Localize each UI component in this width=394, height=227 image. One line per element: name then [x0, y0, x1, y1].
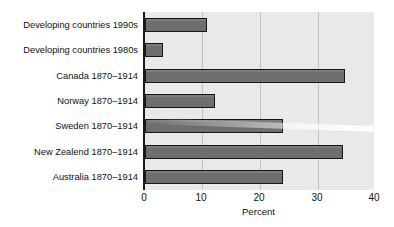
xtick-label: 20 [253, 192, 264, 203]
bar-row [145, 37, 374, 62]
xtick-label: 40 [368, 192, 379, 203]
category-label: Norway 1870–1914 [57, 96, 138, 106]
plot-area [143, 12, 374, 190]
category-label-row: Canada 1870–1914 [0, 63, 138, 88]
category-label: New Zealend 1870–1914 [34, 147, 138, 157]
x-axis-title: Percent [143, 206, 374, 217]
category-label-row: Sweden 1870–1914 [0, 114, 138, 139]
category-label-row: Developing countries 1980s [0, 37, 138, 62]
category-label: Canada 1870–1914 [56, 71, 138, 81]
category-label: Developing countries 1980s [23, 45, 138, 55]
bar-australia [145, 170, 283, 184]
category-label-row: Australia 1870–1914 [0, 165, 138, 190]
xtick-label: 0 [141, 192, 147, 203]
category-label-row: Developing countries 1990s [0, 12, 138, 37]
bar-chart-figure: Developing countries 1990s Developing co… [0, 0, 394, 227]
bar-norway [145, 94, 215, 108]
xtick-label: 10 [195, 192, 206, 203]
bar-developing-1990s [145, 18, 207, 32]
bar-row [145, 114, 374, 139]
bar-sweden [145, 119, 283, 133]
category-axis-labels: Developing countries 1990s Developing co… [0, 12, 140, 190]
category-label: Australia 1870–1914 [53, 172, 138, 182]
bar-row [145, 12, 374, 37]
category-label: Developing countries 1990s [23, 20, 138, 30]
bar-row [145, 139, 374, 164]
xtick-label: 30 [311, 192, 322, 203]
bar-new-zealend [145, 145, 343, 159]
category-label-row: New Zealend 1870–1914 [0, 139, 138, 164]
bar-developing-1980s [145, 43, 163, 57]
value-axis: 0 10 20 30 40 [143, 190, 374, 191]
bar-row [145, 165, 374, 190]
category-label: Sweden 1870–1914 [55, 121, 138, 131]
bar-canada [145, 69, 345, 83]
bar-row [145, 88, 374, 113]
category-label-row: Norway 1870–1914 [0, 88, 138, 113]
bar-row [145, 63, 374, 88]
